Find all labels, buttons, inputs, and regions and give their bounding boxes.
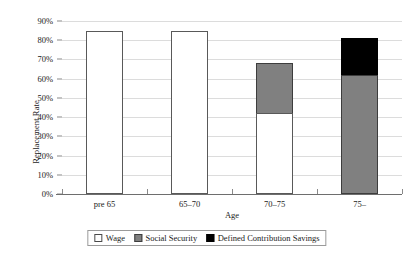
bar-segment-wage[interactable]: [256, 113, 293, 194]
legend-label: Social Security: [145, 233, 197, 243]
legend-label: Wage: [106, 233, 125, 243]
legend-label: Defined Contribution Savings: [218, 233, 320, 243]
legend-item[interactable]: Defined Contribution Savings: [206, 233, 320, 243]
y-tick-label: 60%: [37, 74, 53, 84]
y-tick-label: 50%: [37, 93, 53, 103]
y-tick-label: 30%: [37, 131, 53, 141]
x-axis-line: [56, 194, 402, 196]
legend-swatch-icon: [134, 234, 142, 242]
bar-segment-wage[interactable]: [171, 31, 208, 194]
y-tick-label: 20%: [37, 151, 53, 161]
y-tick-label: 10%: [37, 170, 53, 180]
y-tick-label: 40%: [37, 112, 53, 122]
bar-series-layer: [62, 21, 402, 194]
chart-figure: Replacement Rate 0%10%20%30%40%50%60%70%…: [0, 0, 414, 263]
y-tick-label: 90%: [37, 16, 53, 26]
x-tick-label: 75–: [353, 199, 366, 209]
legend-item[interactable]: Wage: [94, 233, 125, 243]
bar-segment-ss[interactable]: [256, 63, 293, 113]
y-tick-label: 0%: [42, 189, 53, 199]
plot-area: 0%10%20%30%40%50%60%70%80%90% pre 6565–7…: [62, 21, 402, 194]
bar-segment-wage[interactable]: [86, 31, 123, 194]
chart-legend: WageSocial SecurityDefined Contribution …: [87, 230, 326, 246]
x-axis-title: Age: [62, 210, 402, 220]
y-tick-label: 80%: [37, 35, 53, 45]
x-tick-label: pre 65: [94, 199, 115, 209]
legend-item[interactable]: Social Security: [134, 233, 197, 243]
x-tick-label: 70–75: [264, 199, 285, 209]
legend-swatch-icon: [94, 234, 102, 242]
bar-group[interactable]: [86, 31, 123, 194]
legend-swatch-icon: [206, 234, 214, 242]
y-tick-label: 70%: [37, 54, 53, 64]
x-tick-label: 65–70: [179, 199, 200, 209]
bar-segment-ss[interactable]: [341, 75, 378, 194]
bar-group[interactable]: [256, 63, 293, 194]
bar-group[interactable]: [171, 31, 208, 194]
bar-group[interactable]: [341, 38, 378, 194]
x-tick-mark: [402, 189, 403, 194]
bar-segment-dcs[interactable]: [341, 38, 378, 75]
